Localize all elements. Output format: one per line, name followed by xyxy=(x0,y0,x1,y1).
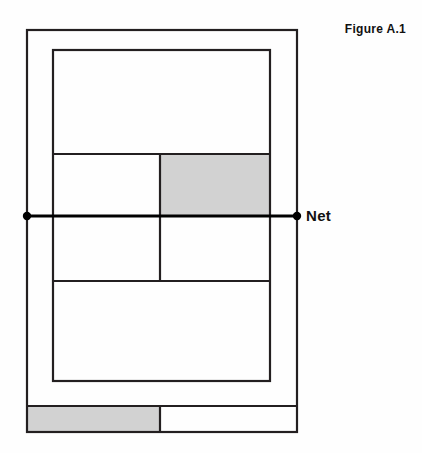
net-post-left-icon xyxy=(23,212,31,220)
figure-caption: Figure A.1 xyxy=(345,22,406,36)
figure-container: Figure A.1 Net xyxy=(0,0,422,453)
tennis-court-diagram xyxy=(0,0,422,453)
shaded-bottom-band-left-region xyxy=(28,407,160,431)
shaded-service-box-region xyxy=(160,154,270,216)
net-post-right-icon xyxy=(293,212,301,220)
figure-background xyxy=(0,0,422,453)
net-label: Net xyxy=(306,208,331,224)
